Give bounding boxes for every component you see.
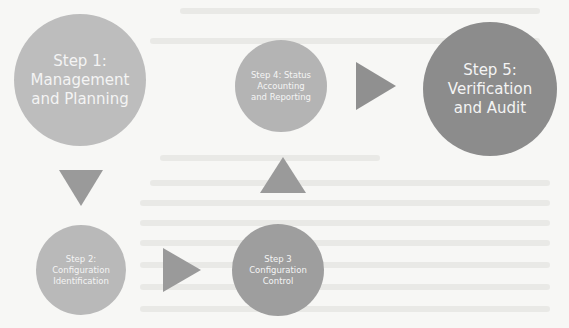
step-1-label: Step 1: Management and Planning <box>31 52 130 109</box>
step-3-line-2: Configuration <box>249 265 307 276</box>
arrow-up-icon <box>260 157 306 193</box>
step-4-line-3: and Reporting <box>251 92 311 103</box>
step-3-line-3: Control <box>249 276 307 287</box>
step-4-label: Step 4: Status Accounting and Reporting <box>251 70 311 103</box>
step-5-line-1: Step 5: <box>448 61 532 80</box>
step-2-line-2: Configuration <box>52 265 110 276</box>
step-5-label: Step 5: Verification and Audit <box>448 61 532 118</box>
step-3-label: Step 3 Configuration Control <box>249 254 307 287</box>
step-5-line-2: Verification <box>448 80 532 99</box>
step-2-line-1: Step 2: <box>52 254 110 265</box>
arrow-down-icon <box>59 170 103 206</box>
step-2-label: Step 2: Configuration Identification <box>52 254 110 287</box>
step-2-line-3: Identification <box>52 276 110 287</box>
arrow-right-icon <box>356 62 396 110</box>
step-3-circle: Step 3 Configuration Control <box>232 224 324 316</box>
step-3-line-1: Step 3 <box>249 254 307 265</box>
arrow-right-icon <box>163 248 201 292</box>
step-5-line-3: and Audit <box>448 99 532 118</box>
step-4-line-2: Accounting <box>251 81 311 92</box>
step-4-circle: Step 4: Status Accounting and Reporting <box>235 40 327 132</box>
step-1-line-2: Management <box>31 71 130 90</box>
step-4-line-1: Step 4: Status <box>251 70 311 81</box>
step-1-line-3: and Planning <box>31 90 130 109</box>
step-2-circle: Step 2: Configuration Identification <box>36 225 126 315</box>
step-1-circle: Step 1: Management and Planning <box>14 14 146 146</box>
step-1-line-1: Step 1: <box>31 52 130 71</box>
step-5-circle: Step 5: Verification and Audit <box>423 22 557 156</box>
